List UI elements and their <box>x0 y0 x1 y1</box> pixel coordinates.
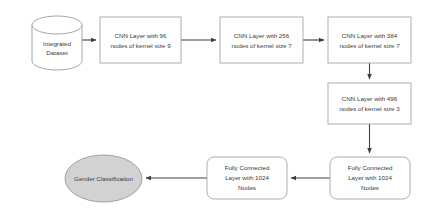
node-gender-classification[interactable]: Gender Classification <box>65 155 142 202</box>
node-label: Dataset <box>46 49 68 56</box>
node-label: Layer with 1024 <box>348 174 392 181</box>
node-label: nodes of kernel size 9 <box>110 42 171 49</box>
node-label: Nodes <box>238 184 256 191</box>
node-label: Fully Connected <box>225 164 270 171</box>
node-label: CNN Layer with 256 <box>234 32 290 39</box>
node-label: nodes of kernel size 7 <box>339 42 400 49</box>
flowchart-canvas: Integrated Dataset CNN Layer with 96 nod… <box>0 0 427 216</box>
node-cnn-layer-96[interactable]: CNN Layer with 96 nodes of kernel size 9 <box>100 17 181 63</box>
node-fully-connected-middle[interactable]: Fully Connected Layer with 1024 Nodes <box>207 157 287 199</box>
node-label: CNN Layer with 496 <box>342 95 398 102</box>
node-label: CNN Layer with 384 <box>342 32 398 39</box>
node-label: Integrated <box>43 40 71 47</box>
node-label: nodes of kernel size 7 <box>231 42 292 49</box>
flowchart-svg: Integrated Dataset CNN Layer with 96 nod… <box>0 0 427 216</box>
node-label: Layer with 1024 <box>225 174 269 181</box>
node-label: Nodes <box>361 184 379 191</box>
node-label: nodes of kernel size 3 <box>339 105 400 112</box>
node-cnn-layer-384[interactable]: CNN Layer with 384 nodes of kernel size … <box>328 17 411 63</box>
node-fully-connected-right[interactable]: Fully Connected Layer with 1024 Nodes <box>330 157 410 199</box>
node-label: Fully Connected <box>348 164 393 171</box>
node-integrated-dataset[interactable]: Integrated Dataset <box>32 16 82 70</box>
node-label: CNN Layer with 96 <box>115 32 167 39</box>
node-label: Gender Classification <box>74 175 133 182</box>
node-cnn-layer-496[interactable]: CNN Layer with 496 nodes of kernel size … <box>328 83 411 124</box>
node-cnn-layer-256[interactable]: CNN Layer with 256 nodes of kernel size … <box>220 17 303 63</box>
